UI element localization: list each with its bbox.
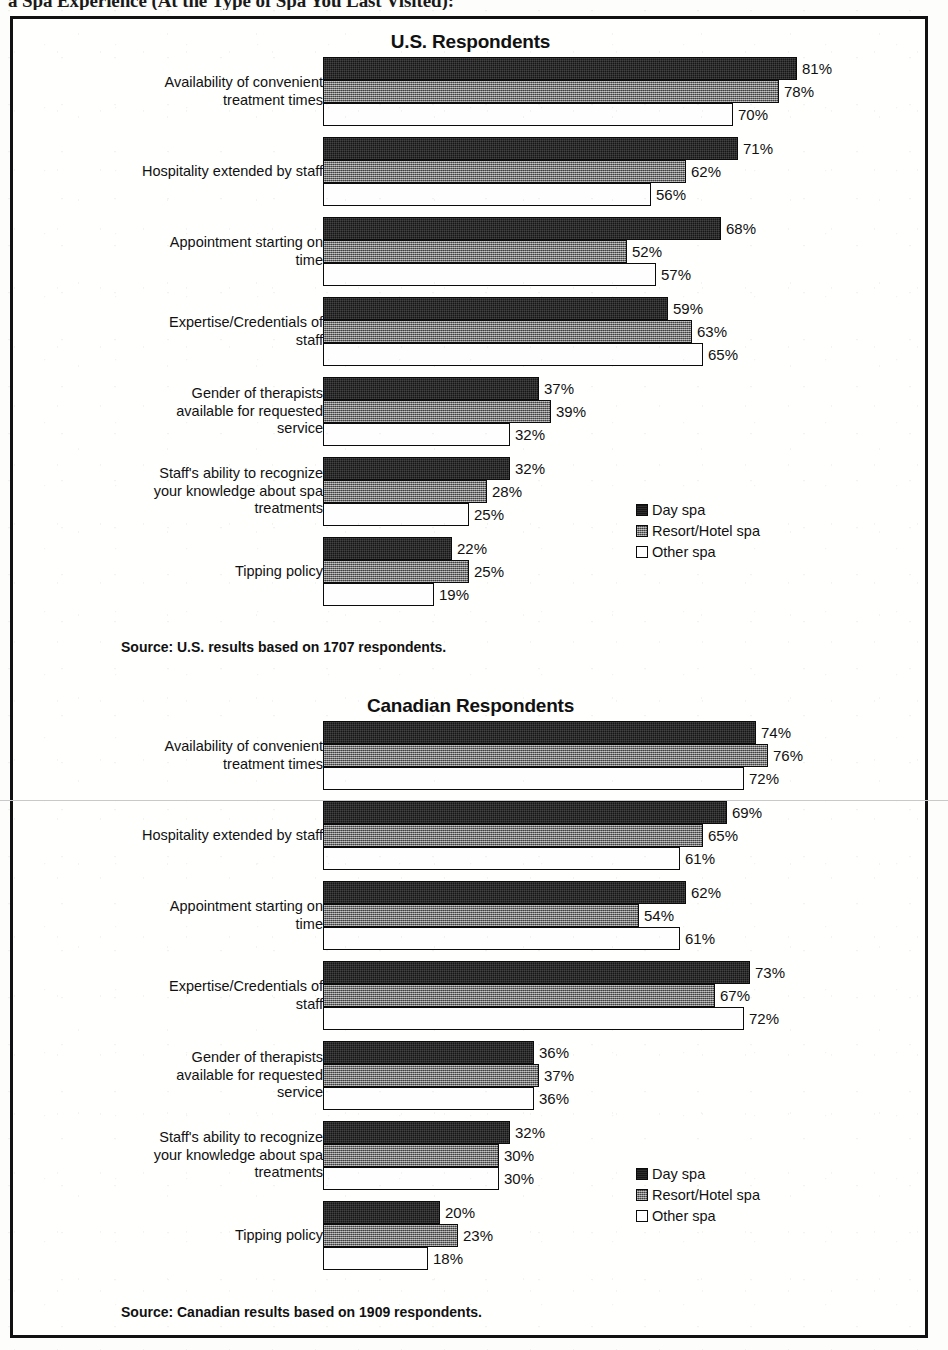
category-label: Appointment starting ontime [93,234,323,269]
bar-day-spa [323,881,686,904]
category-label-line: staff [93,332,323,350]
bar-resort-hotel-spa [323,240,627,263]
bar-day-spa [323,297,668,320]
bar-day-spa [323,1201,440,1224]
category-label-line: Tipping policy [93,1227,323,1245]
category-label-line: Availability of convenient [93,74,323,92]
bar-other-spa [323,1007,744,1030]
category-group: Gender of therapistsavailable for reques… [13,1041,928,1110]
category-label: Staff's ability to recognizeyour knowled… [93,1129,323,1182]
chart-legend: Day spaResort/Hotel spaOther spa [636,499,760,562]
bar-day-spa [323,961,750,984]
category-group: Expertise/Credentials ofstaff73%67%72% [13,961,928,1030]
bar-value-label: 39% [551,400,586,423]
bar-day-spa [323,457,510,480]
legend-label: Day spa [652,1166,705,1182]
category-group: Expertise/Credentials ofstaff59%63%65% [13,297,928,366]
legend-label: Other spa [652,544,716,560]
category-label: Gender of therapistsavailable for reques… [93,1049,323,1102]
category-group: Hospitality extended by staff69%65%61% [13,801,928,870]
bar-other-spa [323,583,434,606]
category-label-line: service [93,1084,323,1102]
category-group: Appointment starting ontime62%54%61% [13,881,928,950]
legend-item-day-spa[interactable]: Day spa [636,499,760,520]
bar-value-label: 52% [627,240,662,263]
bar-value-label: 63% [692,320,727,343]
bar-value-label: 59% [668,297,703,320]
bar-value-label: 81% [797,57,832,80]
bar-resort-hotel-spa [323,904,639,927]
category-group: Appointment starting ontime68%52%57% [13,217,928,286]
category-label-line: Appointment starting on [93,898,323,916]
bar-other-spa [323,503,469,526]
source-note: Source: U.S. results based on 1707 respo… [121,639,446,655]
bar-resort-hotel-spa [323,744,768,767]
bar-other-spa [323,847,680,870]
category-label: Expertise/Credentials ofstaff [93,314,323,349]
legend-swatch-icon [636,525,648,537]
bar-value-label: 18% [428,1247,463,1270]
category-label-line: treatments [93,500,323,518]
bar-other-spa [323,263,656,286]
bar-resort-hotel-spa [323,824,703,847]
bar-value-label: 32% [510,423,545,446]
bar-other-spa [323,767,744,790]
category-label: Tipping policy [93,563,323,581]
bar-other-spa [323,343,703,366]
bar-value-label: 19% [434,583,469,606]
legend-label: Other spa [652,1208,716,1224]
category-label: Expertise/Credentials ofstaff [93,978,323,1013]
category-label-line: service [93,420,323,438]
category-group: Availability of convenienttreatment time… [13,721,928,790]
category-label-line: Gender of therapists [93,1049,323,1067]
plot-area: Availability of convenienttreatment time… [13,57,928,617]
bar-other-spa [323,1247,428,1270]
bar-day-spa [323,57,797,80]
chart-title: U.S. Respondents [13,31,928,53]
bar-value-label: 72% [744,1007,779,1030]
legend-item-other-spa[interactable]: Other spa [636,1205,760,1226]
category-group: Staff's ability to recognizeyour knowled… [13,457,928,526]
category-label-line: time [93,252,323,270]
chart-legend: Day spaResort/Hotel spaOther spa [636,1163,760,1226]
bar-value-label: 23% [458,1224,493,1247]
legend-swatch-icon [636,1168,648,1180]
bar-resort-hotel-spa [323,160,686,183]
bar-day-spa [323,1121,510,1144]
bar-other-spa [323,423,510,446]
bar-other-spa [323,183,651,206]
category-label-line: treatments [93,1164,323,1182]
bar-value-label: 25% [469,560,504,583]
bar-other-spa [323,927,680,950]
legend-item-resort-hotel-spa[interactable]: Resort/Hotel spa [636,520,760,541]
bar-other-spa [323,1087,534,1110]
bar-value-label: 76% [768,744,803,767]
legend-item-day-spa[interactable]: Day spa [636,1163,760,1184]
bar-value-label: 69% [727,801,762,824]
bar-day-spa [323,537,452,560]
category-label-line: treatment times [93,92,323,110]
bar-day-spa [323,377,539,400]
category-label-line: Appointment starting on [93,234,323,252]
bar-resort-hotel-spa [323,80,779,103]
category-label: Gender of therapistsavailable for reques… [93,385,323,438]
bar-value-label: 68% [721,217,756,240]
category-label-line: Staff's ability to recognize [93,1129,323,1147]
legend-item-other-spa[interactable]: Other spa [636,541,760,562]
category-group: Availability of convenienttreatment time… [13,57,928,126]
category-label-line: available for requested [93,1067,323,1085]
bar-value-label: 54% [639,904,674,927]
category-label-line: staff [93,996,323,1014]
bar-value-label: 71% [738,137,773,160]
category-label-line: Tipping policy [93,563,323,581]
bar-value-label: 72% [744,767,779,790]
figure-frame: U.S. RespondentsAvailability of convenie… [10,16,928,1338]
bar-resort-hotel-spa [323,400,551,423]
bar-value-label: 73% [750,961,785,984]
bar-value-label: 61% [680,927,715,950]
category-label-line: Hospitality extended by staff [93,163,323,181]
bar-other-spa [323,1167,499,1190]
plot-area: Availability of convenienttreatment time… [13,721,928,1281]
category-label-line: Expertise/Credentials of [93,978,323,996]
legend-item-resort-hotel-spa[interactable]: Resort/Hotel spa [636,1184,760,1205]
